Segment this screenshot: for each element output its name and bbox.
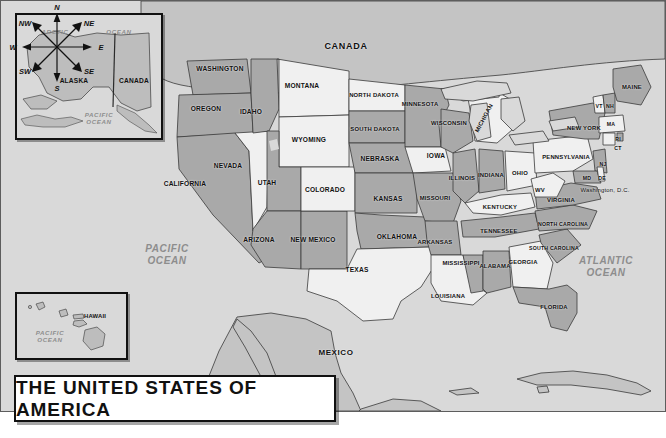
state-label-new-mexico: NEW MEXICO: [290, 237, 335, 244]
state-label-illinois: ILLINOIS: [449, 175, 475, 181]
compass-arrow-n: [54, 13, 61, 22]
compass-label-sw: SW: [19, 67, 31, 76]
state-label-oregon: OREGON: [191, 106, 222, 113]
state-label-new-york: NEW YORK: [567, 125, 601, 131]
state-label-south-dakota: SOUTH DAKOTA: [350, 126, 399, 132]
poly-connecticut: [603, 133, 615, 145]
state-label-iowa: IOWA: [427, 153, 445, 160]
state-label-virginia: VIRGINIA: [547, 197, 575, 203]
state-label-florida: FLORIDA: [540, 304, 568, 310]
niihau-island: [28, 305, 31, 308]
state-label-arkansas: ARKANSAS: [418, 239, 453, 245]
alaska-inset-canada-label: CANADA: [119, 78, 149, 85]
state-label-maine: MAINE: [622, 84, 642, 90]
compass-label-nw: NW: [19, 19, 32, 28]
atlantic-ocean-label: ATLANTIC OCEAN: [579, 255, 633, 278]
compass-label-n: N: [54, 3, 59, 12]
state-label-oklahoma: OKLAHOMA: [377, 234, 417, 241]
state-label-minnesota: MINNESOTA: [402, 101, 439, 107]
state-label-north-dakota: NORTH DAKOTA: [349, 92, 399, 98]
state-label-missouri: MISSOURI: [420, 195, 451, 201]
state-label-arizona: ARIZONA: [243, 237, 274, 244]
state-label-washington-dc: Washington, D.C.: [580, 187, 629, 193]
state-label-rhode-island: RI: [615, 137, 621, 142]
state-label-texas: TEXAS: [346, 267, 369, 274]
state-label-georgia: GEORGIA: [508, 259, 537, 265]
pacific-ocean-label: PACIFIC OCEAN: [145, 243, 188, 266]
poly-alabama: [483, 251, 511, 293]
map-page: .lnd{stroke:#3a3a3a;stroke-width:.8;} .d…: [0, 0, 666, 438]
compass-arrow-e: [83, 44, 92, 51]
state-label-wyoming: WYOMING: [292, 137, 326, 144]
state-label-vermont: VT: [595, 104, 602, 109]
hawaii-inset[interactable]: HAWAII PACIFIC OCEAN: [15, 292, 128, 360]
mexico-label: MEXICO: [318, 349, 353, 357]
compass-rose: N NE E SE S SW W NW: [1, 1, 113, 94]
compass-label-w: W: [9, 43, 16, 52]
state-label-utah: UTAH: [258, 180, 277, 187]
state-label-alabama: ALABAMA: [479, 263, 510, 269]
state-label-pennsylvania: PENNSYLVANIA: [542, 154, 590, 160]
state-label-kentucky: KENTUCKY: [483, 204, 517, 210]
state-label-nevada: NEVADA: [214, 163, 243, 170]
poly-kansas: [355, 173, 417, 213]
state-label-colorado: COLORADO: [305, 187, 345, 194]
pacific-ocean-label-alaska-inset: PACIFIC OCEAN: [85, 111, 114, 125]
state-label-massachusetts: MA: [607, 122, 615, 127]
state-label-south-carolina: SOUTH CAROLINA: [529, 246, 579, 251]
state-label-louisiana: LOUISIANA: [431, 293, 465, 299]
compass-label-e: E: [98, 43, 103, 52]
state-label-connecticut: CT: [614, 146, 621, 151]
state-label-washington: WASHINGTON: [196, 66, 243, 73]
compass-label-s: S: [54, 84, 59, 93]
compass-arrow-s: [54, 73, 61, 82]
map-canvas: .lnd{stroke:#3a3a3a;stroke-width:.8;} .d…: [0, 0, 666, 412]
state-label-delaware: DE: [598, 176, 606, 181]
state-label-mississippi: MISSISSIPPI: [442, 260, 479, 266]
state-label-california: CALIFORNIA: [164, 181, 207, 188]
map-title: THE UNITED STATES OF AMERICA: [16, 377, 334, 421]
molokai-island: [73, 314, 84, 319]
caribbean-island-small: [537, 386, 549, 393]
state-label-nebraska: NEBRASKA: [361, 156, 400, 163]
compass-label-ne: NE: [84, 19, 94, 28]
state-label-new-hampshire: NH: [606, 104, 614, 109]
state-label-maryland: MD: [583, 176, 591, 181]
state-label-west-virginia: WV: [535, 187, 545, 193]
state-label-idaho: IDAHO: [240, 109, 262, 116]
map-title-plate: THE UNITED STATES OF AMERICA: [14, 375, 336, 422]
state-label-ohio: OHIO: [512, 170, 528, 176]
state-label-wisconsin: WISCONSIN: [431, 120, 467, 126]
canada-label: CANADA: [324, 42, 367, 51]
state-label-montana: MONTANA: [285, 83, 320, 90]
state-label-new-jersey: NJ: [599, 162, 606, 167]
pacific-ocean-label-hawaii-inset: PACIFIC OCEAN: [36, 329, 65, 343]
state-label-tennessee: TENNESSEE: [480, 228, 517, 234]
compass-label-se: SE: [84, 67, 94, 76]
hawaii-label: HAWAII: [84, 313, 106, 319]
compass-rose-graphic: [1, 1, 113, 94]
hawaii-inset-graphic: [17, 294, 126, 358]
state-label-north-carolina: NORTH CAROLINA: [538, 222, 588, 227]
state-label-indiana: INDIANA: [478, 172, 504, 178]
state-label-kansas: KANSAS: [373, 196, 402, 203]
compass-arrow-w: [22, 44, 31, 51]
